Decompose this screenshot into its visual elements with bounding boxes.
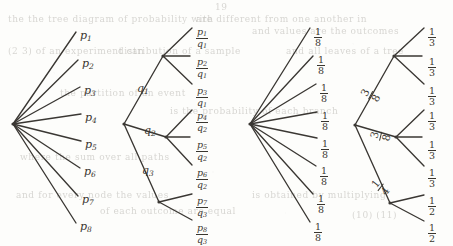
leaf-label: p2 xyxy=(82,57,94,70)
leaf-label-wrap: p5 xyxy=(85,133,97,152)
tree-edge-internal-leaf xyxy=(163,56,192,84)
fraction-label: 13 xyxy=(428,111,436,132)
fraction-numerator-subscript: 4 xyxy=(203,114,207,122)
leaf-label-wrap: 13 xyxy=(428,50,436,78)
fraction-denominator: 8 xyxy=(321,121,329,132)
tree-edge-internal-leaf xyxy=(394,56,424,84)
tree-root-node xyxy=(11,122,14,125)
fraction-numerator: 1 xyxy=(428,168,436,178)
fraction-denominator: q2 xyxy=(196,122,208,134)
fraction-denominator: 8 xyxy=(317,65,325,76)
branch-label-wrap: 38 xyxy=(376,119,385,148)
branch-label-subscript: 1 xyxy=(144,87,149,96)
tree-edge-root-leaf xyxy=(13,32,76,124)
leaf-label-wrap: 13 xyxy=(428,79,436,107)
fraction-numerator-subscript: 2 xyxy=(203,60,207,68)
fraction-numerator: p5 xyxy=(196,140,208,151)
tree-edge-root-leaf xyxy=(13,124,81,141)
leaf-label-wrap: 18 xyxy=(321,104,329,132)
branch-label-subscript: 2 xyxy=(151,129,156,138)
fraction-label: 18 xyxy=(321,139,329,160)
fraction-numerator: 1 xyxy=(320,166,328,176)
fraction-label: p2q1 xyxy=(196,57,208,80)
leaf-label-wrap: 18 xyxy=(320,159,328,187)
fraction-denominator: 3 xyxy=(428,121,436,132)
fraction-label: 13 xyxy=(428,168,436,189)
fraction-numerator-subscript: 8 xyxy=(203,226,207,234)
leaf-label-wrap: 13 xyxy=(428,104,436,132)
fraction-denominator: 8 xyxy=(320,93,328,104)
fraction-numerator: 1 xyxy=(314,27,322,37)
fraction-label: 13 xyxy=(428,27,436,48)
fraction-label: p4q2 xyxy=(196,111,208,134)
leaf-label-subscript: 6 xyxy=(91,170,96,179)
leaf-label: p5 xyxy=(85,138,97,151)
tree-edge-internal-leaf xyxy=(159,194,192,202)
leaf-label: p1 xyxy=(80,29,92,42)
branch-label-wrap: q2 xyxy=(144,119,156,138)
branch-label-wrap: q3 xyxy=(142,159,154,178)
leaf-label-wrap: 18 xyxy=(320,76,328,104)
fraction-label: 18 xyxy=(317,194,325,215)
fraction-denominator: 3 xyxy=(428,37,436,48)
tree-root-node xyxy=(353,123,356,126)
fraction-numerator: p1 xyxy=(196,27,208,38)
fraction-denominator: q1 xyxy=(196,68,208,80)
leaf-label-subscript: 3 xyxy=(91,89,96,98)
branch-label-wrap: 38 xyxy=(366,78,375,107)
leaf-label: p8 xyxy=(80,220,92,233)
leaf-label-subscript: 4 xyxy=(92,116,97,125)
node-three-eighths-lower xyxy=(394,135,397,138)
fraction-numerator: 1 xyxy=(428,196,436,206)
tree-edge-internal-leaf xyxy=(163,28,192,56)
node-q3 xyxy=(157,200,160,203)
fraction-label: 18 xyxy=(314,27,322,48)
leaf-label-wrap: 18 xyxy=(314,215,322,243)
fraction-label: p8q3 xyxy=(196,223,208,246)
leaf-label-wrap: p4 xyxy=(85,106,97,125)
fraction-label: 12 xyxy=(428,223,436,244)
leaf-label-wrap: p1 xyxy=(80,24,92,43)
leaf-label-wrap: 12 xyxy=(428,216,436,244)
tree-root-node xyxy=(248,122,251,125)
fraction-denominator: 2 xyxy=(428,206,436,217)
leaf-label-wrap: 13 xyxy=(428,161,436,189)
fraction-numerator: 1 xyxy=(428,140,436,150)
fraction-numerator-subscript: 3 xyxy=(203,89,207,97)
fraction-numerator: 1 xyxy=(428,223,436,233)
tree-edge-internal-leaf xyxy=(166,110,192,137)
fraction-numerator: 1 xyxy=(428,111,436,121)
fraction-denominator: 3 xyxy=(428,150,436,161)
leaf-label-subscript: 2 xyxy=(89,62,94,71)
fraction-numerator: 1 xyxy=(428,57,436,67)
fraction-denominator: 3 xyxy=(428,67,436,78)
fraction-label: 18 xyxy=(320,83,328,104)
tree-edge-root-leaf xyxy=(250,28,310,124)
fraction-denominator: 3 xyxy=(428,178,436,189)
fraction-numerator: 1 xyxy=(321,139,329,149)
fraction-numerator: p2 xyxy=(196,57,208,68)
tree-edge-group xyxy=(11,28,424,223)
branch-label: q1 xyxy=(137,82,149,95)
fraction-denominator: q3 xyxy=(196,234,208,246)
tree-edge-root-leaf xyxy=(13,60,78,124)
tree-edge-internal-leaf xyxy=(390,195,424,203)
leaf-label-wrap: 18 xyxy=(317,48,325,76)
fraction-denominator: 8 xyxy=(314,37,322,48)
fraction-numerator-subscript: 7 xyxy=(203,199,207,207)
tree-edge-internal-leaf xyxy=(396,137,424,166)
leaf-label: p4 xyxy=(85,111,97,124)
fraction-label: p6q2 xyxy=(196,168,208,191)
fraction-label: 18 xyxy=(321,111,329,132)
fraction-numerator: p3 xyxy=(196,86,208,97)
tree-edge-internal-leaf xyxy=(159,202,192,220)
fraction-numerator: p6 xyxy=(196,168,208,179)
fraction-label: p1q1 xyxy=(196,27,208,50)
branch-label-wrap: 14 xyxy=(376,170,385,199)
branch-label: q2 xyxy=(144,124,156,137)
fraction-label: 18 xyxy=(314,222,322,243)
fraction-denominator: 2 xyxy=(428,233,436,244)
fraction-numerator: p7 xyxy=(196,196,208,207)
